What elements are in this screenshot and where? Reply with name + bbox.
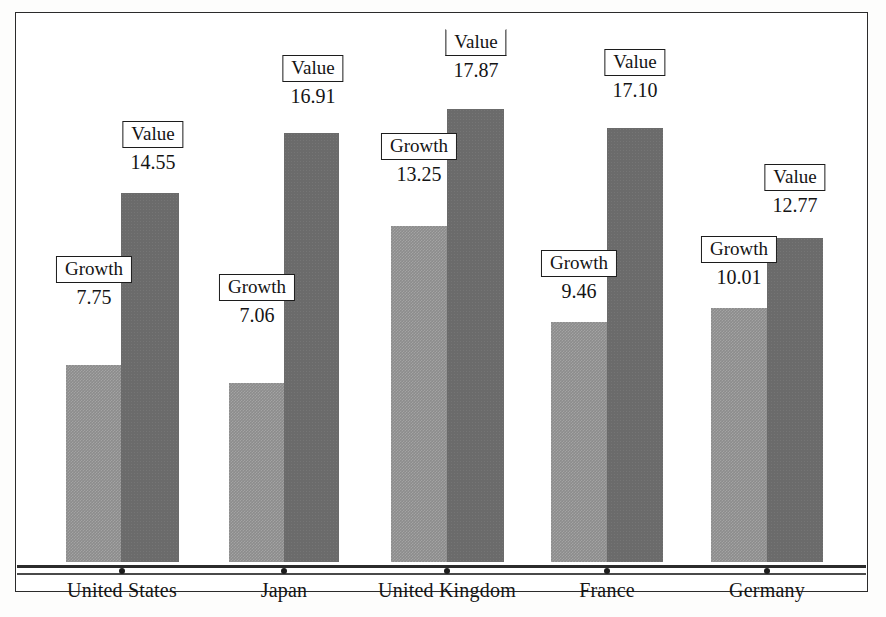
- series-tag-growth: Growth: [219, 274, 295, 301]
- category-label-japan: Japan: [261, 579, 308, 602]
- value-text: 16.91: [282, 85, 343, 107]
- data-label-value-germany: Value 12.77: [764, 164, 825, 216]
- chart-frame: United States Japan United Kingdom Franc…: [15, 12, 868, 592]
- data-label-value-united-kingdom: Value 17.87: [445, 29, 506, 81]
- category-label-france: France: [579, 579, 635, 602]
- bar-growth-germany[interactable]: [711, 308, 767, 562]
- axis-baseline: [17, 565, 866, 568]
- value-text: 14.55: [122, 151, 183, 173]
- data-label-growth-france: Growth 9.46: [541, 250, 617, 302]
- bar-value-france[interactable]: [607, 128, 663, 562]
- bar-growth-united-states[interactable]: [66, 365, 121, 562]
- value-text: 7.75: [56, 286, 132, 308]
- data-label-growth-germany: Growth 10.01: [701, 236, 777, 288]
- value-text: 17.10: [604, 79, 665, 101]
- data-label-growth-united-states: Growth 7.75: [56, 256, 132, 308]
- bar-growth-united-kingdom[interactable]: [391, 226, 447, 562]
- tick-dot-japan: [281, 568, 287, 574]
- series-tag-growth: Growth: [701, 236, 777, 263]
- data-label-value-japan: Value 16.91: [282, 55, 343, 107]
- data-label-growth-united-kingdom: Growth 13.25: [381, 133, 457, 185]
- series-tag-value: Value: [604, 49, 665, 76]
- series-tag-growth: Growth: [541, 250, 617, 277]
- value-text: 9.46: [541, 280, 617, 302]
- category-label-united-kingdom: United Kingdom: [378, 579, 516, 602]
- tick-dot-france: [604, 568, 610, 574]
- scanned-page: United States Japan United Kingdom Franc…: [0, 0, 886, 617]
- data-label-value-france: Value 17.10: [604, 49, 665, 101]
- bar-value-united-states[interactable]: [121, 193, 179, 562]
- series-tag-value: Value: [764, 164, 825, 191]
- plot-area: United States Japan United Kingdom Franc…: [16, 13, 867, 591]
- bar-value-japan[interactable]: [284, 133, 339, 562]
- tick-dot-germany: [764, 568, 770, 574]
- category-label-united-states: United States: [67, 579, 177, 602]
- bar-growth-france[interactable]: [551, 322, 607, 562]
- tick-dot-united-states: [119, 568, 125, 574]
- axis-baseline-underline: [17, 573, 866, 575]
- category-label-germany: Germany: [729, 579, 805, 602]
- value-text: 10.01: [701, 266, 777, 288]
- value-text: 12.77: [764, 194, 825, 216]
- bar-growth-japan[interactable]: [229, 383, 284, 562]
- data-label-growth-japan: Growth 7.06: [219, 274, 295, 326]
- value-text: 17.87: [445, 59, 506, 81]
- series-tag-value: Value: [445, 29, 506, 56]
- series-tag-growth: Growth: [56, 256, 132, 283]
- value-text: 13.25: [381, 163, 457, 185]
- series-tag-value: Value: [282, 55, 343, 82]
- value-text: 7.06: [219, 304, 295, 326]
- tick-dot-united-kingdom: [444, 568, 450, 574]
- data-label-value-united-states: Value 14.55: [122, 121, 183, 173]
- series-tag-growth: Growth: [381, 133, 457, 160]
- series-tag-value: Value: [122, 121, 183, 148]
